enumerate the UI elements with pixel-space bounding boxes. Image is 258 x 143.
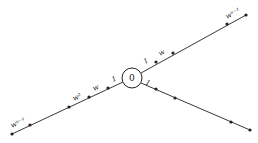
left-label-end: wⁿ⁻¹ [9, 116, 26, 130]
branch-lower-right [141, 83, 250, 130]
lower-right-label-1: 1 [144, 78, 151, 87]
upper-right-nodes [154, 13, 247, 63]
upper-right-label-w: w [157, 48, 166, 58]
center-node-label: 0 [129, 73, 135, 83]
left-label-w: w [91, 83, 100, 93]
upper-right-label-1: 1 [142, 57, 150, 66]
left-label-1: 1 [110, 75, 117, 84]
branch-left [12, 82, 123, 134]
graph-diagram: 0 1 w wⁿ⁻¹ 1 w w² wⁿ⁻¹ 1 [0, 0, 258, 143]
branch-upper-right [141, 15, 246, 73]
